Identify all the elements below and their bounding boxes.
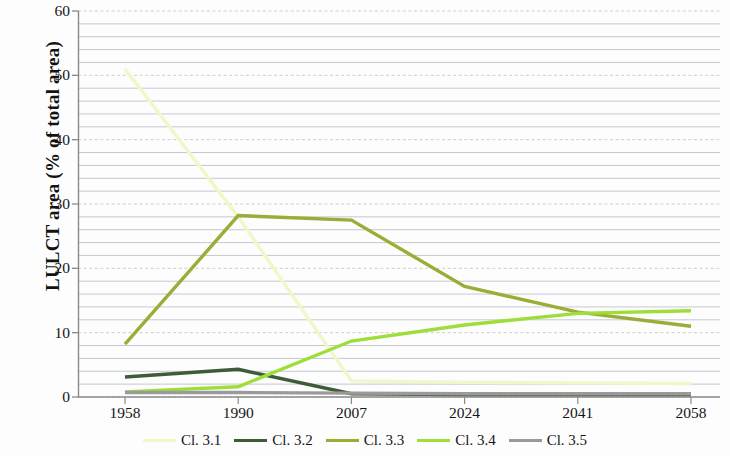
legend-swatch-icon [234,439,267,443]
x-tick-label: 2041 [543,404,613,422]
y-tick-label: 60 [28,3,70,19]
series-line-cl-3-3 [125,216,691,345]
series-line-cl-3-5 [125,392,691,393]
legend-label: Cl. 3.4 [455,432,495,449]
x-axis-tick-labels: 195819902007202420412058 [78,404,720,428]
y-tick-label: 50 [28,67,70,83]
x-tick-label: 1958 [90,404,160,422]
y-axis-tick-labels: 6050403020100 [20,11,70,397]
legend-item[interactable]: Cl. 3.1 [143,432,221,449]
legend-swatch-icon [417,439,450,443]
legend-swatch-icon [143,439,176,443]
line-chart: LULCT area (% of total area) 60504030201… [0,0,730,456]
series-line-cl-3-4 [125,311,691,392]
legend-label: Cl. 3.2 [272,432,312,449]
legend-item[interactable]: Cl. 3.3 [326,432,404,449]
legend-item[interactable]: Cl. 3.2 [234,432,312,449]
legend-item[interactable]: Cl. 3.5 [509,432,587,449]
x-tick-label: 2058 [656,404,726,422]
legend-label: Cl. 3.1 [181,432,221,449]
x-tick-label: 1990 [203,404,273,422]
y-tick-label: 0 [28,389,70,405]
y-tick-label: 20 [28,260,70,276]
y-tick-label: 40 [28,132,70,148]
x-tick-label: 2024 [430,404,500,422]
chart-legend: Cl. 3.1Cl. 3.2Cl. 3.3Cl. 3.4Cl. 3.5 [0,432,730,449]
legend-label: Cl. 3.3 [364,432,404,449]
legend-label: Cl. 3.5 [547,432,587,449]
y-tick-label: 30 [28,196,70,212]
legend-swatch-icon [326,439,359,443]
series-line-cl-3-1 [125,69,691,384]
series-lines [78,11,720,397]
y-tick-label: 10 [28,325,70,341]
x-tick-label: 2007 [316,404,386,422]
legend-item[interactable]: Cl. 3.4 [417,432,495,449]
legend-swatch-icon [509,439,542,443]
plot-area [78,11,720,397]
